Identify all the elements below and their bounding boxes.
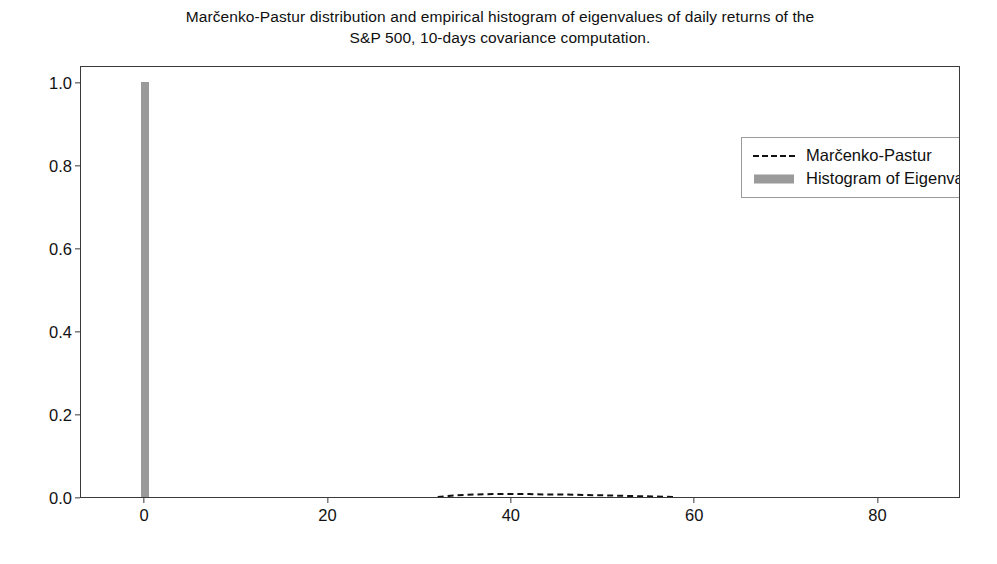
legend-item-histogram: Histogram of Eigenvalues bbox=[751, 167, 960, 190]
x-tick-label: 0 bbox=[140, 506, 149, 525]
chart-title-line-2: S&P 500, 10-days covariance computation. bbox=[60, 27, 940, 48]
x-tick-mark bbox=[877, 498, 878, 503]
chart-title: Marčenko-Pastur distribution and empiric… bbox=[60, 6, 940, 48]
x-tick-mark bbox=[144, 498, 145, 503]
x-tick-mark bbox=[694, 498, 695, 503]
plot-surface bbox=[81, 67, 959, 497]
x-axis-tick-marks bbox=[80, 498, 960, 504]
histogram-bar bbox=[141, 82, 149, 497]
dashed-line-icon bbox=[751, 148, 797, 164]
y-tick-label: 0.4 bbox=[49, 322, 72, 341]
color-swatch-icon bbox=[751, 171, 797, 187]
legend-item-marcenko-pastur: Marčenko-Pastur bbox=[751, 144, 960, 167]
marcenko-pastur-curve bbox=[81, 67, 959, 497]
y-tick-label: 0.0 bbox=[49, 489, 72, 508]
x-tick-label: 40 bbox=[502, 506, 520, 525]
y-tick-label: 0.6 bbox=[49, 239, 72, 258]
plot-area: Marčenko-Pastur Histogram of Eigenvalues bbox=[80, 66, 960, 498]
marcenko-pastur-polyline bbox=[438, 494, 676, 497]
x-tick-mark bbox=[327, 498, 328, 503]
x-tick-label: 20 bbox=[318, 506, 336, 525]
x-tick-label: 60 bbox=[685, 506, 703, 525]
legend-label-marcenko-pastur: Marčenko-Pastur bbox=[806, 147, 932, 164]
y-axis-tick-labels: 0.00.20.40.60.81.0 bbox=[20, 66, 72, 498]
x-tick-label: 80 bbox=[868, 506, 886, 525]
y-tick-label: 0.8 bbox=[49, 156, 72, 175]
figure-canvas: Marčenko-Pastur distribution and empiric… bbox=[0, 0, 997, 564]
chart-title-line-1: Marčenko-Pastur distribution and empiric… bbox=[60, 6, 940, 27]
y-tick-label: 1.0 bbox=[49, 73, 72, 92]
chart-legend: Marčenko-Pastur Histogram of Eigenvalues bbox=[741, 137, 960, 198]
x-tick-mark bbox=[510, 498, 511, 503]
x-axis-tick-labels: 020406080 bbox=[0, 506, 997, 532]
legend-label-histogram: Histogram of Eigenvalues bbox=[806, 170, 960, 187]
y-tick-label: 0.2 bbox=[49, 405, 72, 424]
